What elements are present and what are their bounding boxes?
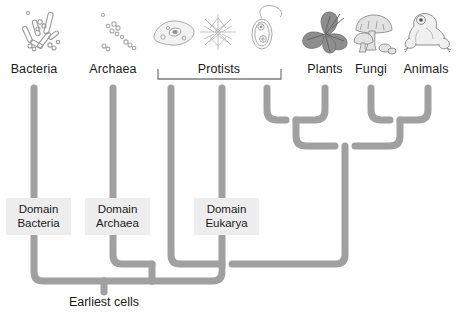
phylogenetic-tree-diagram: Bacteria Archaea Protists Plants Fungi A… <box>0 0 458 318</box>
domain-archaea-line1: Domain <box>90 202 145 216</box>
root-label-earliest-cells: Earliest cells <box>44 295 164 309</box>
domain-box-archaea: Domain Archaea <box>85 198 150 235</box>
branch-plants-stem <box>296 120 335 146</box>
branch-eukarya-base <box>152 272 222 281</box>
domain-bacteria-line1: Domain <box>11 202 66 216</box>
domain-bacteria-line2: Bacteria <box>11 216 66 230</box>
domain-box-bacteria: Domain Bacteria <box>6 198 71 235</box>
branch-plants-right <box>296 88 325 120</box>
branch-bacteria-lower <box>34 232 104 281</box>
tree-branches <box>0 0 458 318</box>
branch-animals <box>400 88 428 120</box>
branch-protist-left <box>171 88 222 264</box>
branch-opisthokont-stem <box>355 120 400 146</box>
branch-fungi <box>371 88 390 120</box>
protists-bracket <box>158 69 281 79</box>
domain-eukarya-line1: Domain <box>199 202 254 216</box>
branch-plants-left <box>267 88 286 120</box>
domain-box-eukarya: Domain Eukarya <box>194 198 259 235</box>
domain-archaea-line2: Archaea <box>90 216 145 230</box>
domain-eukarya-line2: Eukarya <box>199 216 254 230</box>
branch-archaea-lower <box>113 232 152 264</box>
